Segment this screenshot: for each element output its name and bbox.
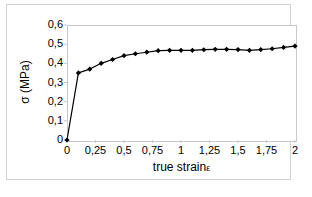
data-point-marker (247, 48, 252, 53)
data-point-marker (235, 47, 240, 52)
chart-figure: 00,10,20,30,40,50,6 00,250,50,7511,251,5… (0, 0, 312, 197)
x-tick-label: 0,25 (85, 144, 106, 156)
series-true-stress-strain (64, 43, 297, 142)
data-point-marker (110, 57, 115, 62)
data-point-marker (224, 47, 229, 52)
data-point-marker (178, 48, 183, 53)
data-plot-svg (67, 25, 296, 141)
x-axis-title: true strainε (67, 160, 296, 174)
data-point-marker (133, 51, 138, 56)
x-axis-title-symbol: ε (206, 163, 210, 173)
data-point-marker (201, 47, 206, 52)
x-tick-label: 1,5 (230, 144, 245, 156)
x-axis-tick-labels: 00,250,50,7511,251,51,752 (7, 144, 292, 160)
data-point-marker (258, 47, 263, 52)
data-point-marker (121, 53, 126, 58)
data-point-marker (167, 48, 172, 53)
series-line (67, 46, 295, 140)
y-axis-title: σ (MPa) (18, 22, 32, 142)
x-tick-label: 0,75 (142, 144, 163, 156)
x-tick-label: 2 (292, 144, 298, 156)
data-point-marker (156, 48, 161, 53)
data-point-marker (76, 70, 81, 75)
x-tick-label: 0,5 (116, 144, 131, 156)
data-point-marker (213, 47, 218, 52)
series-markers (64, 43, 297, 142)
x-tick-label: 1,25 (199, 144, 220, 156)
x-tick-label: 1,75 (256, 144, 277, 156)
chart-outer-frame: 00,10,20,30,40,50,6 00,250,50,7511,251,5… (6, 4, 291, 180)
data-point-marker (99, 61, 104, 66)
x-tick-label: 1 (178, 144, 184, 156)
data-point-marker (190, 48, 195, 53)
data-point-marker (144, 50, 149, 55)
x-axis-title-text: true strain (153, 160, 206, 174)
data-point-marker (87, 66, 92, 71)
data-point-marker (281, 45, 286, 50)
data-point-marker (270, 46, 275, 51)
x-tick-label: 0 (64, 144, 70, 156)
